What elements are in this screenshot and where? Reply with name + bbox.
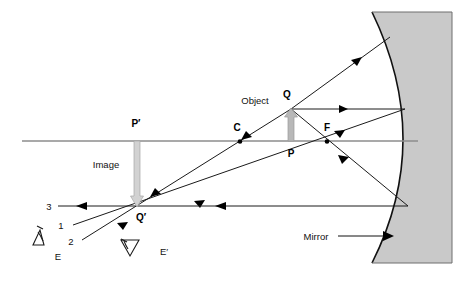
label-point-P-prime: P′ bbox=[131, 118, 141, 129]
label-point-P: P bbox=[288, 148, 295, 159]
mirror-body-shape bbox=[372, 12, 452, 263]
label-image: Image bbox=[93, 159, 119, 170]
eye-symbol-E-prime bbox=[121, 239, 139, 256]
ray-through-focus-incident bbox=[291, 109, 408, 206]
ray-arrowhead-f bbox=[117, 222, 128, 230]
label-ray-1: 1 bbox=[58, 220, 63, 231]
image-arrow-shape bbox=[131, 141, 144, 207]
eye-Eprime-cone bbox=[121, 240, 139, 256]
image-arrow bbox=[131, 141, 144, 207]
ray-arrowhead-parallel bbox=[339, 105, 348, 113]
ray-group-upper bbox=[82, 37, 390, 240]
point-marker-F bbox=[325, 139, 330, 144]
ray-segment-q-to-mirror-top bbox=[291, 37, 390, 109]
label-point-Q: Q bbox=[283, 89, 291, 100]
ray-arrowhead-b bbox=[241, 131, 252, 140]
optics-diagram-canvas: Q P C F P′ Q′ Object Image Mirror 3 1 2 … bbox=[0, 0, 458, 281]
label-eye-E-prime: E′ bbox=[160, 246, 168, 257]
ray-arrowhead-d bbox=[334, 130, 345, 138]
ray-arrowhead-e bbox=[194, 200, 205, 208]
ray-diagram-figure: Q P C F P′ Q′ Object Image Mirror 3 1 2 … bbox=[0, 0, 458, 281]
label-object: Object bbox=[241, 95, 269, 106]
point-marker-C bbox=[238, 139, 243, 144]
label-point-C: C bbox=[233, 122, 240, 133]
label-eye-E: E bbox=[55, 251, 61, 262]
ray-arrowhead-h bbox=[215, 202, 226, 210]
mirror-group bbox=[372, 12, 452, 263]
label-ray-2: 2 bbox=[68, 236, 73, 247]
label-ray-3: 3 bbox=[46, 201, 51, 212]
mirror-leader bbox=[338, 231, 394, 241]
eye-E-lash bbox=[37, 226, 43, 229]
ray-arrowhead-i bbox=[76, 202, 87, 210]
label-point-F: F bbox=[324, 122, 330, 133]
label-point-Q-prime: Q′ bbox=[136, 212, 147, 223]
ray-segment-2-virtual-extension bbox=[82, 109, 291, 240]
label-mirror: Mirror bbox=[304, 231, 329, 242]
eye-symbol-E bbox=[33, 226, 44, 245]
